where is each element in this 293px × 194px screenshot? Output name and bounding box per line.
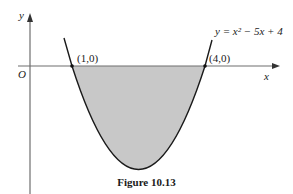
equation-label: y = x² − 5x + 4 <box>215 25 283 37</box>
point-label-4-0: (4,0) <box>209 52 230 64</box>
y-axis-label: y <box>19 9 24 21</box>
x-axis-arrow-icon <box>272 63 280 69</box>
root-point-1 <box>70 64 74 68</box>
root-point-4 <box>203 64 207 68</box>
origin-label: O <box>18 68 26 80</box>
figure-caption: Figure 10.13 <box>0 176 293 188</box>
y-axis-arrow-icon <box>27 13 33 22</box>
x-axis-label: x <box>264 70 269 82</box>
point-label-1-0: (1,0) <box>77 52 98 64</box>
